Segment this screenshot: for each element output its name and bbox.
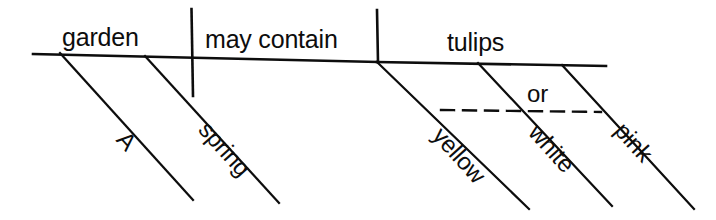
sentence-diagram: garden may contain tulips or A spring ye… <box>0 0 716 220</box>
label-verb-phrase: may contain <box>205 27 338 52</box>
divider-verb-object <box>377 10 378 62</box>
label-direct-object: tulips <box>447 30 504 55</box>
modifier-line-a <box>60 53 193 200</box>
label-conjunction: or <box>527 82 548 106</box>
baseline-left-segment <box>33 54 377 62</box>
baseline-right-segment <box>377 62 606 66</box>
divider-subject-verb <box>192 9 194 96</box>
label-subject: garden <box>62 25 139 50</box>
dashed-conjunction-line <box>441 110 601 112</box>
